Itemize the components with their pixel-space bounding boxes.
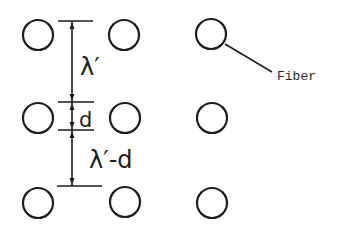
fiber-spacing-diagram: λ′ d λ′-d Fiber — [0, 0, 348, 227]
fiber-circle-r3c1 — [23, 188, 53, 218]
diagram-svg: λ′ d λ′-d Fiber — [0, 0, 348, 227]
fiber-circle-r3c2 — [110, 187, 140, 217]
fiber-circle-r2c1 — [23, 103, 53, 133]
arrow-down-icon — [70, 122, 75, 129]
fiber-leader-line — [225, 44, 272, 72]
fiber-grid — [23, 19, 227, 218]
fiber-callout-label: Fiber — [277, 69, 316, 84]
fiber-circle-r1c3 — [196, 19, 226, 49]
arrow-down-icon — [70, 178, 75, 185]
arrow-up-icon — [70, 22, 75, 29]
arrow-down-icon — [70, 94, 75, 101]
lambda-prime-label: λ′ — [80, 53, 100, 81]
fiber-circle-r2c3 — [197, 103, 227, 133]
fiber-circle-r2c2 — [110, 103, 140, 133]
arrow-up-icon — [70, 103, 75, 110]
d-label: d — [79, 108, 92, 132]
fiber-circle-r3c3 — [197, 188, 227, 218]
lambda-minus-d-label: λ′-d — [89, 146, 133, 174]
fiber-circle-r1c1 — [23, 20, 53, 50]
fiber-circle-r1c2 — [109, 20, 139, 50]
arrow-up-icon — [70, 131, 75, 138]
